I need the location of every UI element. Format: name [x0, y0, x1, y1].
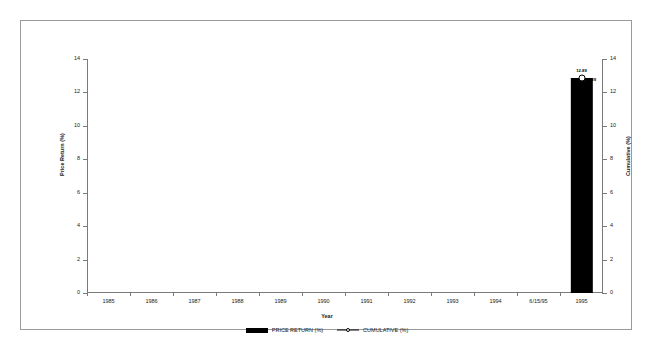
x-tick-label: 1991 [360, 299, 372, 305]
y-tick-label: 6 [77, 190, 80, 196]
secondary-y-tick-mark [602, 92, 607, 93]
x-tick-mark [130, 292, 131, 296]
y-tick-mark [83, 159, 88, 160]
x-tick-label: 1988 [231, 299, 243, 305]
figure-frame: Price Return (%) Cumulative (%) 02468101… [20, 20, 632, 330]
x-axis-title: Year [21, 313, 633, 319]
y-tick-label: 12 [74, 90, 80, 96]
chart-legend: PRICE RETURN (%)CUMULATIVE (%) [21, 327, 633, 333]
x-tick-label: 1993 [446, 299, 458, 305]
secondary-y-tick-mark [602, 193, 607, 194]
secondary-y-tick-mark [602, 126, 607, 127]
x-tick-mark [345, 292, 346, 296]
x-tick-mark [87, 292, 88, 296]
y-tick-mark [83, 126, 88, 127]
x-tick-label: 1985 [102, 299, 114, 305]
y-tick-mark [83, 92, 88, 93]
y-tick-mark [83, 226, 88, 227]
x-tick-label: 1995 [575, 299, 587, 305]
x-tick-mark [517, 292, 518, 296]
secondary-y-tick-label: 4 [610, 223, 613, 229]
legend-item: CUMULATIVE (%) [337, 327, 408, 333]
bar-value-label: 12.89 [576, 68, 586, 72]
legend-line-marker-swatch-icon [337, 327, 359, 333]
secondary-y-tick-label: 10 [610, 123, 616, 129]
x-tick-label: 1994 [489, 299, 501, 305]
secondary-y-tick-mark [602, 226, 607, 227]
y-tick-mark [83, 193, 88, 194]
secondary-y-tick-label: 2 [610, 257, 613, 263]
secondary-y-tick-mark [602, 59, 607, 60]
y-axis-line [87, 59, 88, 293]
secondary-y-axis-line [602, 59, 603, 293]
y-tick-label: 14 [74, 56, 80, 62]
x-tick-mark [302, 292, 303, 296]
secondary-y-tick-label: 12 [610, 90, 616, 96]
secondary-y-tick-label: 14 [610, 56, 616, 62]
x-tick-label: 1989 [274, 299, 286, 305]
secondary-y-tick-mark [602, 159, 607, 160]
bar-price-return [570, 78, 592, 293]
legend-item: PRICE RETURN (%) [246, 327, 323, 333]
y-tick-label: 10 [74, 123, 80, 129]
y-tick-label: 0 [77, 290, 80, 296]
legend-bar-swatch-icon [246, 328, 268, 333]
legend-item-label: PRICE RETURN (%) [272, 327, 323, 333]
x-tick-mark [560, 292, 561, 296]
secondary-y-tick-label: 6 [610, 190, 613, 196]
x-tick-label: 1987 [188, 299, 200, 305]
secondary-y-axis-title: Cumulative (%) [625, 136, 631, 176]
cumulative-value-label: 12.89 [586, 77, 596, 81]
cumulative-marker [578, 74, 585, 81]
x-tick-label: 1990 [317, 299, 329, 305]
y-tick-mark [83, 260, 88, 261]
y-tick-label: 8 [77, 157, 80, 163]
secondary-y-tick-label: 0 [610, 290, 613, 296]
secondary-y-tick-mark [602, 260, 607, 261]
plot-area: 02468101214 02468101214 1985198619871988… [87, 59, 603, 293]
y-tick-label: 2 [77, 257, 80, 263]
x-tick-mark [474, 292, 475, 296]
y-tick-mark [83, 59, 88, 60]
x-tick-label: 1986 [145, 299, 157, 305]
x-tick-mark [259, 292, 260, 296]
x-tick-mark [216, 292, 217, 296]
x-tick-mark [173, 292, 174, 296]
legend-item-label: CUMULATIVE (%) [363, 327, 408, 333]
secondary-y-tick-mark [602, 293, 607, 294]
x-tick-mark [388, 292, 389, 296]
y-tick-label: 4 [77, 223, 80, 229]
x-tick-label: 6/15/95 [529, 299, 547, 305]
x-tick-label: 1992 [403, 299, 415, 305]
y-axis-title: Price Return (%) [59, 133, 65, 176]
secondary-y-tick-label: 8 [610, 157, 613, 163]
x-tick-mark [431, 292, 432, 296]
chart-page: Price Return (%) Cumulative (%) 02468101… [0, 0, 653, 352]
